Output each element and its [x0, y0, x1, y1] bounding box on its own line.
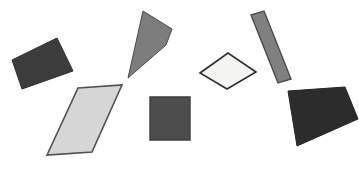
shapes-svg: Dark quadrilateralGray kiteLight gray pa…: [0, 0, 359, 171]
shapes-figure-canvas: Dark quadrilateralGray kiteLight gray pa…: [0, 0, 359, 171]
shape-dark-square-center: Dark square: [150, 97, 190, 140]
